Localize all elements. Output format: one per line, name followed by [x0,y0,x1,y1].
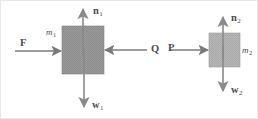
diagram-canvas [1,1,258,119]
force-label-P: P [168,43,175,55]
block-2-body [209,33,240,67]
block-2-group [170,17,240,91]
force-label-F: F [20,38,27,50]
mass-label-m1: m1 [46,28,56,39]
force-label-w1: w1 [92,100,104,112]
block-1-group [15,9,147,107]
force-label-Q: Q [151,44,160,56]
force-label-n1: n1 [93,6,103,18]
force-label-n2: n2 [231,13,241,25]
force-label-w2: w2 [231,85,243,97]
free-body-diagram-figure: n1 m1 F Q w1 n2 m2 P w2 [0,0,258,119]
mass-label-m2: m2 [242,46,252,57]
